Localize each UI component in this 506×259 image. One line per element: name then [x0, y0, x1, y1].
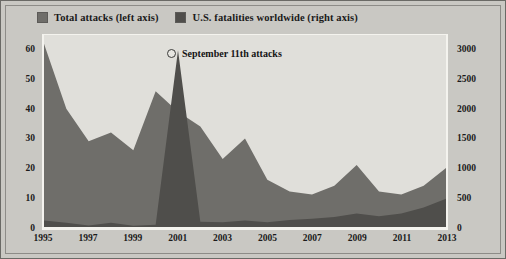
y-axis-left: 0102030405060	[1, 34, 41, 228]
annotation-label: September 11th attacks	[182, 48, 282, 59]
y-axis-right-tick: 500	[457, 193, 471, 203]
y-axis-right-tick: 0	[457, 223, 462, 233]
y-axis-left-tick: 20	[26, 163, 36, 173]
annotation-september-11: September 11th attacks	[167, 48, 282, 59]
x-axis-tick: 2003	[213, 233, 232, 243]
x-axis-tick: 2009	[348, 233, 367, 243]
y-axis-right: 050010001500200025003000	[451, 34, 491, 228]
legend-swatch-icon	[37, 12, 48, 23]
legend-item-total-attacks: Total attacks (left axis)	[37, 12, 158, 23]
legend-label-total-attacks: Total attacks (left axis)	[54, 12, 158, 23]
y-axis-right-tick: 2000	[457, 104, 476, 114]
legend-swatch-icon	[175, 12, 186, 23]
plot-area	[43, 34, 447, 228]
y-axis-left-tick: 60	[26, 44, 36, 54]
y-axis-right-tick: 1500	[457, 133, 476, 143]
y-axis-right-tick: 3000	[457, 44, 476, 54]
y-axis-right-tick: 1000	[457, 163, 476, 173]
y-axis-left-tick: 10	[26, 193, 36, 203]
y-axis-right-tick: 2500	[457, 74, 476, 84]
y-axis-left-tick: 40	[26, 104, 36, 114]
chart-svg	[44, 35, 446, 227]
circle-marker-icon	[167, 49, 176, 58]
legend-item-us-fatalities: U.S. fatalities worldwide (right axis)	[175, 12, 357, 23]
x-axis: 1995199719992001200320052007200920112013	[43, 233, 447, 249]
chart-legend: Total attacks (left axis) U.S. fatalitie…	[37, 9, 358, 25]
x-axis-line	[42, 228, 448, 230]
y-axis-left-tick: 50	[26, 74, 36, 84]
x-axis-tick: 1995	[34, 233, 53, 243]
legend-label-us-fatalities: U.S. fatalities worldwide (right axis)	[192, 12, 357, 23]
series-area-total-attacks	[44, 44, 446, 227]
x-axis-tick: 1999	[123, 233, 142, 243]
x-axis-tick: 2001	[168, 233, 187, 243]
x-axis-tick: 2013	[438, 233, 457, 243]
chart-frame: Total attacks (left axis) U.S. fatalitie…	[0, 0, 506, 259]
x-axis-tick: 1997	[78, 233, 97, 243]
x-axis-tick: 2005	[258, 233, 277, 243]
y-axis-right-line	[446, 34, 448, 230]
y-axis-left-line	[42, 34, 44, 230]
x-axis-tick: 2007	[303, 233, 322, 243]
y-axis-left-tick: 0	[30, 223, 35, 233]
x-axis-tick: 2011	[393, 233, 411, 243]
y-axis-left-tick: 30	[26, 133, 36, 143]
